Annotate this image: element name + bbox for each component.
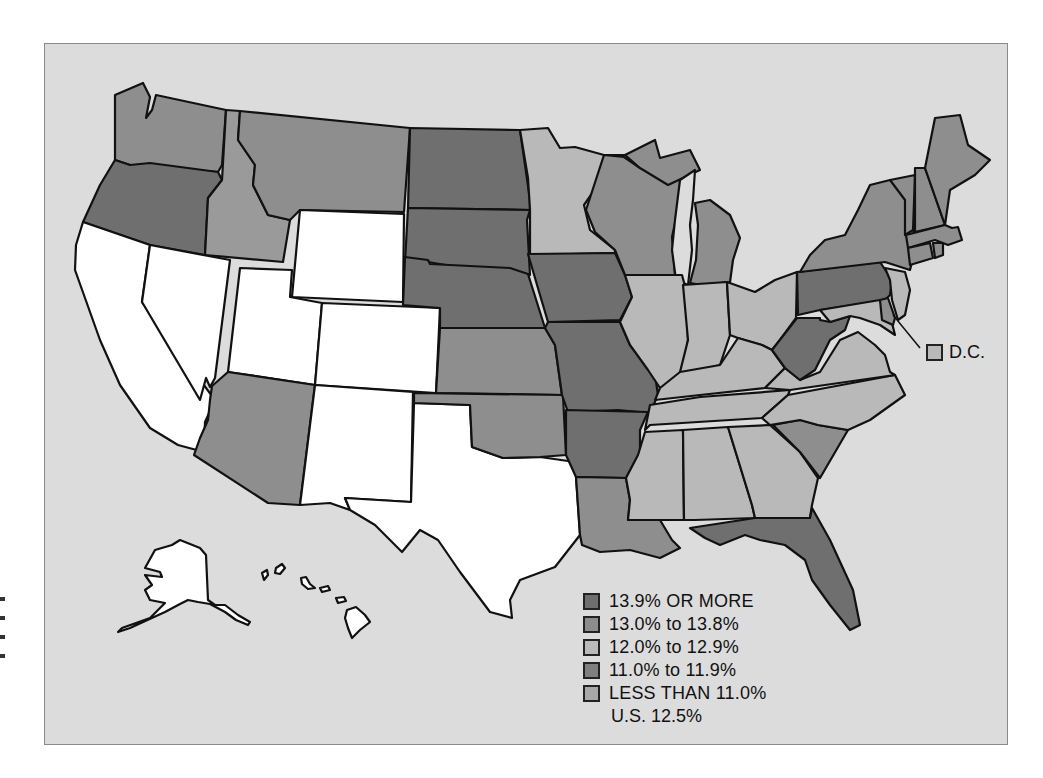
state-IA bbox=[528, 253, 632, 322]
legend-label: 13.0% to 13.8% bbox=[609, 614, 739, 635]
legend-label: 13.9% OR MORE bbox=[609, 591, 754, 612]
state-HI-island-4 bbox=[320, 586, 330, 592]
state-ND bbox=[408, 128, 530, 210]
legend-item-13-9-or-more: 13.9% OR MORE bbox=[583, 590, 766, 613]
dc-indicator: D.C. bbox=[926, 342, 985, 363]
legend-label: 11.0% to 11.9% bbox=[609, 660, 736, 681]
legend-item-12-0-to-12-9: 12.0% to 12.9% bbox=[583, 636, 766, 659]
state-RI bbox=[933, 243, 943, 258]
dc-label: D.C. bbox=[949, 342, 985, 363]
state-NM bbox=[300, 385, 413, 510]
state-AK bbox=[118, 540, 250, 632]
state-KS bbox=[436, 328, 562, 395]
us-average-label: U.S. 12.5% bbox=[611, 705, 766, 728]
legend-swatch bbox=[583, 662, 600, 679]
legend-item-less-than-11-0: LESS THAN 11.0% bbox=[583, 682, 766, 705]
dc-swatch bbox=[926, 344, 943, 361]
legend-label: 12.0% to 12.9% bbox=[609, 637, 739, 658]
state-HI bbox=[345, 607, 370, 638]
state-WY bbox=[292, 210, 404, 302]
dc-leader-line bbox=[893, 315, 920, 348]
state-AZ bbox=[194, 372, 315, 505]
state-HI-island-5 bbox=[336, 597, 346, 603]
state-CO bbox=[315, 303, 440, 393]
map-legend: 13.9% OR MORE 13.0% to 13.8% 12.0% to 12… bbox=[583, 590, 766, 728]
legend-swatch bbox=[583, 639, 600, 656]
us-choropleth-map bbox=[0, 0, 1043, 778]
state-IN bbox=[680, 282, 730, 372]
state-HI-island-1 bbox=[262, 570, 268, 580]
legend-swatch bbox=[583, 616, 600, 633]
legend-swatch bbox=[583, 685, 600, 702]
state-WA bbox=[115, 83, 226, 172]
state-HI-island-3 bbox=[301, 577, 315, 589]
legend-swatch bbox=[583, 593, 600, 610]
state-NY bbox=[800, 180, 915, 272]
state-MI bbox=[690, 200, 740, 285]
legend-item-13-0-to-13-8: 13.0% to 13.8% bbox=[583, 613, 766, 636]
state-CT bbox=[908, 243, 933, 265]
state-MT bbox=[238, 111, 410, 220]
legend-label: LESS THAN 11.0% bbox=[609, 683, 766, 704]
state-HI-island-2 bbox=[275, 564, 285, 574]
legend-item-11-0-to-11-9: 11.0% to 11.9% bbox=[583, 659, 766, 682]
